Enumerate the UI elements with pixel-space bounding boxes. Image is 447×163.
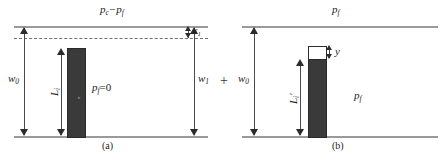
panel-b: pf w0 y Li′ pf (b) [228, 0, 447, 163]
panel-b-caption: (b) [332, 140, 344, 151]
panel-b-y-label: y [335, 46, 340, 57]
panel-a-Li-arrow-down-icon [57, 129, 65, 136]
panel-a-x1-label: x1 [193, 26, 201, 37]
panel-b-w0-dimension-line [254, 28, 255, 135]
panel-a-bottom-boundary-line [14, 136, 208, 138]
panel-b-w0-arrow-up-icon [250, 27, 258, 34]
panel-b-bottom-boundary-line [242, 136, 438, 138]
panel-b-top-pressure-label: pf [332, 4, 340, 16]
panel-b-w0-label: w0 [238, 73, 249, 85]
panel-a-caption: (a) [102, 140, 113, 151]
schematic-figure: pc−pf w0 w1 x1 σ [0, 0, 447, 163]
plus-operator: + [220, 73, 228, 89]
panel-a-Li-label: Li [49, 88, 61, 96]
panel-a-w0-dimension-line [24, 28, 25, 135]
panel-a-Li-arrow-up-icon [57, 48, 65, 55]
panel-a-w0-arrow-up-icon [20, 27, 28, 34]
panel-b-fluid-pressure-label: pf [354, 90, 362, 102]
panel-a-w0-arrow-down-icon [20, 129, 28, 136]
panel-b-Li-prime-arrow-up-icon [296, 59, 304, 66]
panel-a-fluid-pressure-label: pf=0 [92, 82, 111, 94]
panel-a: pc−pf w0 w1 x1 σ [0, 0, 220, 163]
panel-b-w0-arrow-down-icon [250, 129, 258, 136]
panel-b-top-boundary-line [242, 26, 438, 28]
panel-b-Li-prime-label: Li′ [288, 93, 300, 104]
panel-a-w0-label: w0 [8, 73, 19, 85]
panel-a-x1-arrow-down-icon [185, 33, 191, 38]
panel-a-top-boundary-line [14, 26, 208, 28]
panel-a-dashed-level-line [14, 38, 208, 39]
panel-b-y-arrow-down-icon [326, 54, 332, 59]
panel-b-y-arrow-up-icon [326, 45, 332, 50]
panel-a-w1-arrow-down-icon [190, 129, 198, 136]
panel-a-w1-label: w1 [198, 73, 209, 85]
panel-b-fluid-column-bar [308, 59, 327, 138]
panel-a-top-pressure-label: pc−pf [100, 4, 124, 16]
panel-b-Li-prime-arrow-down-icon [296, 129, 304, 136]
panel-a-fluid-column-bar: σ [67, 48, 86, 138]
panel-a-bar-inner-label: σ [77, 97, 82, 99]
panel-a-w1-dimension-line [194, 28, 195, 135]
panel-a-x1-arrow-up-icon [185, 26, 191, 31]
